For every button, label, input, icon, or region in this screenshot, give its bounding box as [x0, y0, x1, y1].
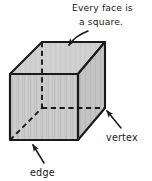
edge-note-label: edge [30, 167, 55, 178]
annotation-vertex-note: vertex [106, 111, 138, 143]
vertex-note-label: vertex [106, 132, 138, 143]
figure-canvas: Every face is a square. vertex edge [0, 0, 152, 181]
annotation-edge-note: edge [30, 145, 55, 178]
vertex-note-arrow-icon [107, 111, 121, 128]
cube-diagram: Every face is a square. vertex edge [0, 0, 152, 181]
face-note-line2: a square. [79, 16, 123, 27]
face-note-line1: Every face is [72, 2, 133, 13]
cube-shape [10, 42, 105, 140]
edge-note-arrow-icon [33, 145, 44, 163]
cube-face-front [10, 74, 78, 140]
annotation-face-note: Every face is a square. [69, 2, 133, 45]
